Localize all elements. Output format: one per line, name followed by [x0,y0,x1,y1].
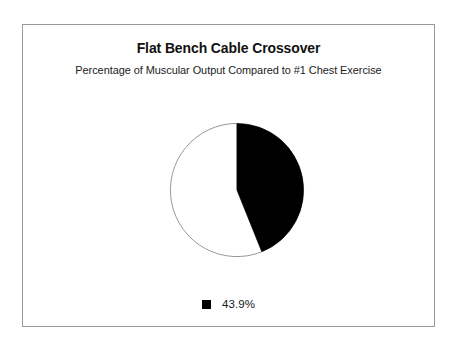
chart-title: Flat Bench Cable Crossover [37,39,419,56]
pie-chart [169,122,305,258]
chart-legend: 43.9% [23,298,434,310]
chart-frame: Flat Bench Cable Crossover Percentage of… [22,24,435,327]
legend-item: 43.9% [202,298,255,310]
pie-chart-svg [169,122,305,258]
legend-swatch-icon [202,300,211,309]
legend-item-label: 43.9% [222,298,255,310]
chart-subtitle: Percentage of Muscular Output Compared t… [33,64,423,76]
